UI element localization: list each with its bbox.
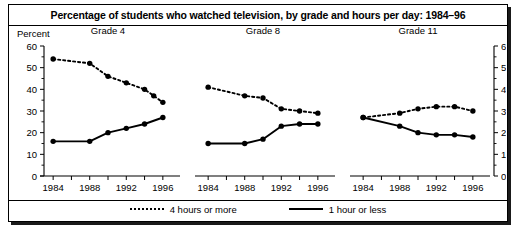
data-point: [87, 139, 92, 144]
chart-panel-grade-11: Grade 111984198819921996: [350, 26, 490, 193]
data-point: [242, 141, 247, 146]
y-tick-label: 50: [501, 62, 506, 73]
chart-title-bar: Percentage of students who watched telev…: [9, 5, 507, 26]
data-point: [279, 106, 284, 111]
x-tick-label: 1984: [198, 182, 219, 193]
data-point: [315, 121, 320, 126]
data-point: [160, 100, 165, 105]
data-point: [124, 80, 129, 85]
y-tick-label: 30: [501, 106, 506, 117]
y-tick-label: 60: [26, 41, 37, 52]
data-point: [260, 136, 265, 141]
data-point: [279, 123, 284, 128]
y-tick-label: 60: [501, 41, 506, 52]
x-tick-label: 1984: [353, 182, 374, 193]
x-tick-label: 1992: [116, 182, 137, 193]
chart-panel-grade-8: Grade 81984198819921996: [195, 26, 335, 193]
x-tick-label: 1988: [79, 182, 100, 193]
data-point: [397, 110, 402, 115]
legend-label: 1 hour or less: [329, 204, 387, 215]
y-tick-label: 50: [26, 62, 37, 73]
data-point: [434, 132, 439, 137]
chart-svg: 01020304050600102030405060Grade 41984198…: [9, 26, 506, 198]
dotted-line-icon: [130, 208, 164, 210]
data-point: [50, 56, 55, 61]
data-point: [397, 123, 402, 128]
x-tick-label: 1996: [307, 182, 328, 193]
page-title: Percentage of students who watched telev…: [51, 9, 466, 21]
legend-item-1-hour-or-less[interactable]: 1 hour or less: [289, 204, 387, 215]
chart-legend: 4 hours or more 1 hour or less: [9, 199, 507, 219]
data-point: [360, 115, 365, 120]
data-point: [151, 93, 156, 98]
data-point: [452, 132, 457, 137]
y-tick-label: 0: [32, 171, 37, 182]
data-point: [242, 93, 247, 98]
x-tick-label: 1996: [152, 182, 173, 193]
data-point: [124, 126, 129, 131]
data-point: [415, 130, 420, 135]
chart-figure: Percentage of students who watched telev…: [8, 4, 508, 222]
y-axis-right: 0102030405060: [494, 41, 506, 182]
x-tick-label: 1984: [43, 182, 64, 193]
series-line-1-hour-or-less: [53, 118, 163, 142]
data-point: [142, 121, 147, 126]
chart-panel-grade-4: Grade 41984198819921996: [40, 26, 180, 193]
data-point: [205, 84, 210, 89]
data-point: [105, 74, 110, 79]
panel-title: Grade 8: [246, 26, 280, 36]
data-point: [415, 106, 420, 111]
x-tick-label: 1988: [389, 182, 410, 193]
y-tick-label: 30: [26, 106, 37, 117]
y-tick-label: 40: [501, 84, 506, 95]
data-point: [297, 121, 302, 126]
data-point: [105, 130, 110, 135]
chart-layers: 01020304050600102030405060Grade 41984198…: [26, 26, 506, 193]
y-tick-label: 0: [501, 171, 506, 182]
data-point: [50, 139, 55, 144]
data-point: [452, 104, 457, 109]
data-point: [470, 108, 475, 113]
data-point: [470, 134, 475, 139]
solid-line-icon: [289, 208, 323, 210]
data-point: [205, 141, 210, 146]
legend-item-4-hours-or-more[interactable]: 4 hours or more: [130, 204, 237, 215]
y-tick-label: 10: [26, 149, 37, 160]
y-axis-left: 0102030405060: [26, 41, 44, 182]
series-line-4-hours-or-more: [53, 59, 163, 102]
x-tick-label: 1992: [426, 182, 447, 193]
data-point: [434, 104, 439, 109]
data-point: [87, 61, 92, 66]
y-tick-label: 40: [26, 84, 37, 95]
data-point: [297, 108, 302, 113]
y-tick-label: 10: [501, 149, 506, 160]
panel-title: Grade 4: [91, 26, 125, 36]
data-point: [260, 95, 265, 100]
x-tick-label: 1988: [234, 182, 255, 193]
legend-label: 4 hours or more: [170, 204, 237, 215]
data-point: [160, 115, 165, 120]
x-tick-label: 1992: [271, 182, 292, 193]
x-tick-label: 1996: [462, 182, 483, 193]
data-point: [142, 87, 147, 92]
panel-title: Grade 11: [399, 26, 438, 36]
y-tick-label: 20: [501, 127, 506, 138]
plot-area: 01020304050600102030405060Grade 41984198…: [9, 26, 506, 221]
data-point: [315, 110, 320, 115]
y-tick-label: 20: [26, 127, 37, 138]
